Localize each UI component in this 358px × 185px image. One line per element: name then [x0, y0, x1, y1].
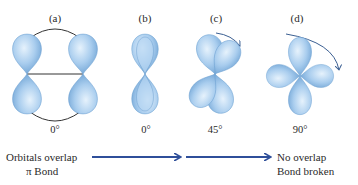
panel-label-c: (c) [201, 12, 231, 24]
angle-label-b: 0° [131, 124, 161, 135]
caption-overlap: Orbitals overlap [6, 150, 77, 164]
orbital-pair-d [266, 34, 339, 115]
caption-bond-broken: Bond broken [277, 164, 334, 178]
angle-label-c: 45° [200, 124, 230, 135]
angle-label-a: 0° [40, 124, 70, 135]
panel-label-d: (d) [282, 12, 312, 24]
orbital-pair-b [132, 34, 159, 114]
orbital-pair-c [184, 32, 246, 116]
angle-label-d: 90° [285, 124, 315, 135]
orbital-pair-a [13, 29, 98, 121]
caption-no-overlap: No overlap [277, 150, 326, 164]
panel-label-b: (b) [130, 12, 160, 24]
caption-pi-bond: π Bond [26, 164, 58, 178]
panel-label-a: (a) [40, 12, 70, 24]
